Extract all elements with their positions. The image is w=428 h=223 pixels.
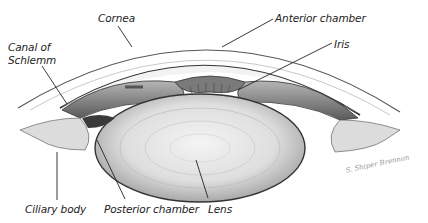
label-iris: Iris — [334, 38, 349, 50]
label-lens: Lens — [208, 203, 232, 215]
eye-anatomy-figure: Cornea Anterior chamber Iris Canal of Sc… — [0, 0, 428, 223]
ciliary-body-right — [331, 120, 400, 152]
lens — [95, 94, 305, 202]
label-posterior-chamber: Posterior chamber — [104, 203, 199, 215]
label-canal-of-schlemm-line1: Canal of — [8, 41, 50, 53]
label-ciliary-body: Ciliary body — [25, 203, 86, 215]
label-anterior-chamber: Anterior chamber — [275, 12, 366, 24]
label-cornea: Cornea — [98, 12, 135, 24]
eye-illustration — [0, 0, 428, 223]
label-canal-of-schlemm-line2: Schlemm — [8, 54, 56, 66]
ciliary-body-left — [20, 118, 89, 150]
